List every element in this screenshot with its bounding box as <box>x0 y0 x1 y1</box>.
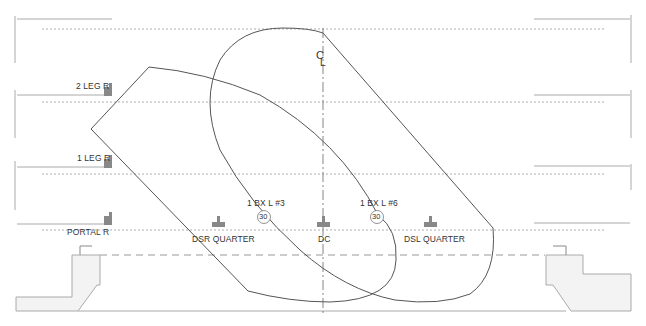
mark-icon-dsl <box>424 216 437 227</box>
area-label-dsr-quarter: DSR QUARTER <box>192 235 255 244</box>
left-wing-rules <box>15 16 112 224</box>
left-proscenium <box>16 246 100 311</box>
centerline-sub: L <box>320 58 326 68</box>
right-proscenium <box>546 246 631 311</box>
area-label-dsl-quarter: DSL QUARTER <box>404 235 465 244</box>
lighting-plot-diagram: C L 2 LEG R 1 LEG R PORTAL R DSR QUARTER… <box>0 0 646 326</box>
unit-label-3: 1 BX L #3 <box>247 199 285 208</box>
right-wing-rules <box>534 15 631 223</box>
mark-icon-dsr <box>212 216 225 227</box>
boom-icon-portal-r <box>104 212 112 225</box>
unit-circles <box>258 211 384 224</box>
unit-label-6: 1 BX L #6 <box>360 199 398 208</box>
mark-icon-dc <box>317 216 330 227</box>
focus-area-unit-6 <box>210 28 494 302</box>
area-label-dc: DC <box>318 235 330 244</box>
position-label-portal-r: PORTAL R <box>67 228 109 237</box>
unit-number-6: 30 <box>372 213 381 221</box>
stage-marks <box>212 216 437 227</box>
position-label-1-leg-r: 1 LEG R <box>77 154 110 163</box>
position-label-2-leg-r: 2 LEG R <box>76 82 109 91</box>
unit-number-3: 30 <box>259 213 268 221</box>
